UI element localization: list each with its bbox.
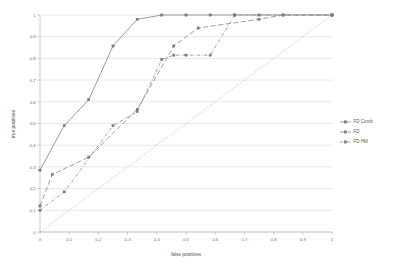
data-point-marker [136,110,138,112]
data-point-marker [234,14,236,16]
legend-item-fd-hm[interactable]: FD HM [340,139,368,144]
data-point-marker [136,18,138,20]
y-tick-marks [37,15,40,232]
y-tick-label: 0,4 [30,143,37,148]
series-plot-group [39,14,333,212]
legend-marker-key [344,131,346,133]
y-tick-label: 0,3 [30,165,37,170]
data-point-marker [39,205,41,207]
y-tick-labels: 00,10,20,30,40,50,60,70,80,91 [30,13,37,235]
legend-marker-key [344,121,346,123]
y-tick-label: 0,7 [30,78,37,83]
data-point-marker [112,125,114,127]
series-fd-hm [39,14,333,212]
legend-label: FD Comb [354,119,374,124]
data-point-marker [63,125,65,127]
legend-label: FD [354,129,361,134]
legend-label: FD HM [354,139,368,144]
x-tick-labels: 00,10,20,30,40,50,60,70,80,91 [39,237,334,242]
chart-legend: FD CombFDFD HM [340,119,373,144]
data-point-marker [197,27,199,29]
y-tick-label: 0,5 [30,121,37,126]
data-point-marker [173,54,175,56]
data-point-marker [185,54,187,56]
data-point-marker [173,45,175,47]
x-tick-label: 0,2 [95,237,102,242]
y-tick-label: 0,6 [30,100,37,105]
y-tick-label: 0,2 [30,186,37,191]
y-tick-label: 0,1 [30,208,37,213]
data-point-marker [161,14,163,16]
x-axis-title: false positives [171,252,202,257]
x-tick-label: 0,3 [125,237,132,242]
data-point-marker [331,14,333,16]
data-point-marker [88,98,90,100]
chart-canvas: 00,10,20,30,40,50,60,70,80,91 00,10,20,3… [0,0,394,267]
x-tick-label: 0 [39,237,42,242]
data-point-marker [185,14,187,16]
data-point-marker [258,18,260,20]
data-point-marker [63,191,65,193]
x-tick-label: 1 [331,237,334,242]
y-tick-label: 0 [33,230,36,235]
x-tick-label: 0,6 [212,237,219,242]
roc-chart: 00,10,20,30,40,50,60,70,80,91 00,10,20,3… [0,0,394,267]
y-tick-label: 0,9 [30,34,37,39]
data-point-marker [209,54,211,56]
x-tick-label: 0,9 [300,237,307,242]
legend-item-fd-comb[interactable]: FD Comb [340,119,373,124]
series-line [40,15,332,210]
x-tick-label: 0,7 [241,237,248,242]
y-tick-label: 1 [33,13,36,18]
series-fd [39,14,333,207]
x-tick-label: 0,5 [183,237,190,242]
data-point-marker [39,169,41,171]
data-point-marker [161,58,163,60]
x-tick-label: 0,8 [271,237,278,242]
grid-lines [40,15,332,232]
data-point-marker [39,209,41,211]
y-tick-label: 0,8 [30,56,37,61]
data-point-marker [209,14,211,16]
data-point-marker [112,45,114,47]
x-tick-label: 0,1 [66,237,73,242]
legend-marker-key [344,141,346,143]
legend-item-fd[interactable]: FD [340,129,360,134]
y-axis-title: true positives [11,109,16,138]
data-point-marker [51,173,53,175]
x-tick-marks [40,232,332,235]
x-tick-label: 0,4 [154,237,161,242]
series-line [40,15,332,206]
series-line [40,15,332,170]
